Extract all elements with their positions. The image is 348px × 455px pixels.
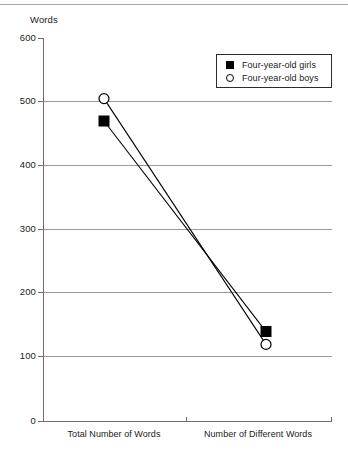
series-line-four-year-old-boys bbox=[104, 99, 266, 345]
line-chart-figure: Words 600 500 400 300 200 100 0 Total Nu… bbox=[0, 0, 348, 455]
data-point-open-circle-boys-number-of-different-words bbox=[261, 339, 271, 349]
data-point-filled-square-girls-number-of-different-words bbox=[261, 326, 272, 337]
legend-label-four-year-old-girls: Four-year-old girls bbox=[242, 60, 316, 71]
legend-item-four-year-old-boys: Four-year-old boys bbox=[224, 71, 318, 85]
legend-item-four-year-old-girls: Four-year-old girls bbox=[224, 58, 316, 72]
filled-square-icon bbox=[224, 59, 236, 71]
open-circle-icon bbox=[224, 72, 236, 84]
chart-legend: Four-year-old girls Four-year-old boys bbox=[216, 54, 332, 88]
data-point-open-circle-boys-total-number-of-words bbox=[99, 94, 109, 104]
series-line-four-year-old-girls bbox=[104, 121, 266, 332]
legend-label-four-year-old-boys: Four-year-old boys bbox=[242, 73, 318, 84]
data-point-filled-square-girls-total-number-of-words bbox=[99, 116, 110, 127]
